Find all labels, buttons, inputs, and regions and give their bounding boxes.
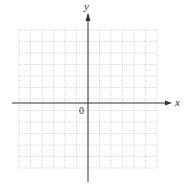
coordinate-plane: x y 0 [0, 0, 185, 185]
x-axis-arrow-icon [165, 101, 172, 106]
x-axis [12, 101, 172, 106]
y-axis-label: y [83, 0, 89, 12]
origin-label: 0 [79, 105, 84, 116]
y-axis-arrow-icon [86, 13, 91, 21]
x-axis-label: x [174, 96, 180, 108]
